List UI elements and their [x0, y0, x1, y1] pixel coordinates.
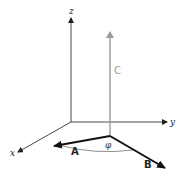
- x-axis-label: x: [10, 148, 15, 158]
- angle-arc: [58, 145, 133, 152]
- diagram-canvas: z y x C A B φ: [0, 0, 186, 177]
- z-axis-label: z: [68, 6, 74, 16]
- vector-b-label: B: [144, 159, 152, 170]
- x-axis: [18, 122, 71, 152]
- vector-a: [54, 136, 110, 146]
- angle-phi-label: φ: [105, 140, 112, 150]
- y-axis-label: y: [169, 117, 176, 127]
- vector-diagram: z y x C A B φ: [0, 0, 186, 177]
- vector-a-label: A: [71, 146, 79, 157]
- vector-b: [110, 136, 165, 168]
- vector-c-label: C: [114, 65, 121, 76]
